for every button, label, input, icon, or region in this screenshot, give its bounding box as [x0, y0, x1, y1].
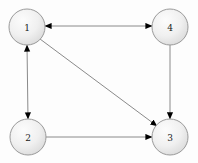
- node-1[interactable]: 1: [9, 9, 45, 45]
- graph-diagram: 1 4 2 3: [0, 0, 198, 163]
- edge-group: [27, 26, 170, 137]
- edge-1-2[interactable]: [27, 45, 28, 119]
- graph-canvas: 1 4 2 3: [0, 0, 198, 163]
- node-4[interactable]: 4: [152, 9, 188, 45]
- node-2-label: 2: [25, 133, 31, 143]
- node-2[interactable]: 2: [10, 119, 46, 155]
- edge-1-3[interactable]: [40, 39, 157, 126]
- node-1-label: 1: [24, 23, 30, 33]
- node-3[interactable]: 3: [152, 119, 188, 155]
- node-3-label: 3: [167, 133, 173, 143]
- node-4-label: 4: [167, 23, 173, 33]
